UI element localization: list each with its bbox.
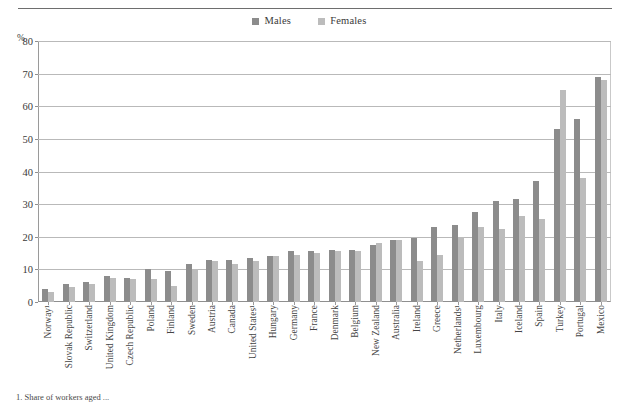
x-axis-label-cell: Luxembourg (468, 305, 488, 400)
bar-females[interactable] (519, 216, 525, 302)
bar-group[interactable] (222, 41, 242, 302)
bar-group[interactable] (304, 41, 324, 302)
x-axis-tick-label: Czech Republic (125, 305, 135, 366)
bar-group[interactable] (263, 41, 283, 302)
y-axis-tick-label: 70 (23, 68, 34, 79)
x-axis-label-cell: United States¹ (243, 305, 263, 400)
bar-females[interactable] (417, 261, 423, 302)
x-axis-tick-label: United States¹ (248, 305, 258, 359)
x-axis-tick-label: United Kingdom (105, 305, 115, 369)
bar-group[interactable] (243, 41, 263, 302)
bar-groups (38, 41, 611, 302)
bar-group[interactable] (345, 41, 365, 302)
bar-females[interactable] (376, 243, 382, 302)
y-axis-tick-label: 10 (23, 264, 34, 275)
x-axis-tick-label: Australia (391, 305, 401, 340)
x-axis-label-cell: Switzerland (79, 305, 99, 400)
x-axis-tick-label: Denmark (330, 305, 340, 340)
bar-females[interactable] (273, 256, 279, 302)
bar-group[interactable] (58, 41, 78, 302)
bar-females[interactable] (212, 261, 218, 302)
x-axis-tick-label: Slovak Republic (64, 305, 74, 368)
x-axis-tick-label: Mexico (596, 305, 606, 334)
bar-females[interactable] (458, 237, 464, 302)
x-axis-tick-label: Germany (289, 305, 299, 340)
bar-group[interactable] (202, 41, 222, 302)
bar-females[interactable] (539, 219, 545, 302)
bar-females[interactable] (355, 251, 361, 302)
bar-group[interactable] (161, 41, 181, 302)
plot-area: 01020304050607080 (38, 41, 611, 302)
x-axis-label-cell: France (304, 305, 324, 400)
bar-group[interactable] (591, 41, 611, 302)
bar-females[interactable] (335, 251, 341, 302)
x-axis-label-cell: Denmark (325, 305, 345, 400)
bar-group[interactable] (468, 41, 488, 302)
x-axis-tick-label: Hungary (268, 305, 278, 338)
bar-females[interactable] (314, 253, 320, 302)
bar-group[interactable] (427, 41, 447, 302)
bar-females[interactable] (110, 278, 116, 302)
bar-group[interactable] (99, 41, 119, 302)
bar-group[interactable] (79, 41, 99, 302)
bar-group[interactable] (386, 41, 406, 302)
x-axis-label-cell: New Zealand (366, 305, 386, 400)
bar-group[interactable] (38, 41, 58, 302)
x-axis-tick-label: Luxembourg (473, 305, 483, 354)
bar-group[interactable] (488, 41, 508, 302)
bar-females[interactable] (130, 279, 136, 302)
y-axis-tick-label: 30 (23, 199, 34, 210)
bar-females[interactable] (499, 229, 505, 302)
legend-entry[interactable]: Males (252, 16, 291, 27)
bar-group[interactable] (284, 41, 304, 302)
x-axis-label-cell: Austria (202, 305, 222, 400)
bar-females[interactable] (48, 292, 54, 302)
x-axis-tick-label: Finland (166, 305, 176, 334)
x-axis-tick-label: Norway¹ (43, 305, 53, 338)
bar-females[interactable] (396, 240, 402, 302)
bar-females[interactable] (560, 90, 566, 302)
x-axis-tick-label: Switzerland (84, 305, 94, 351)
x-axis-label-cell: United Kingdom (99, 305, 119, 400)
bar-group[interactable] (406, 41, 426, 302)
bar-group[interactable] (140, 41, 160, 302)
y-axis-tick-label: 40 (23, 166, 34, 177)
bar-group[interactable] (447, 41, 467, 302)
x-axis-label-cell: Hungary (263, 305, 283, 400)
y-axis-tick-label: 50 (23, 133, 34, 144)
x-axis-tick-label: Netherlands¹ (453, 305, 463, 354)
bar-females[interactable] (69, 287, 75, 302)
bar-females[interactable] (294, 255, 300, 302)
bar-group[interactable] (550, 41, 570, 302)
bar-females[interactable] (151, 279, 157, 302)
bar-females[interactable] (253, 261, 259, 302)
x-axis-tick-label: Austria (207, 305, 217, 333)
bar-group[interactable] (325, 41, 345, 302)
x-axis-labels: Norway¹Slovak RepublicSwitzerlandUnited … (38, 305, 611, 400)
x-axis-tick-label: Italy (494, 305, 504, 323)
bar-females[interactable] (437, 255, 443, 302)
y-axis-tick-label: 0 (28, 297, 33, 308)
bar-females[interactable] (89, 284, 95, 302)
bar-group[interactable] (366, 41, 386, 302)
x-axis-label-cell: Slovak Republic (58, 305, 78, 400)
x-axis-label-cell: Sweden (181, 305, 201, 400)
legend-label: Females (330, 16, 366, 27)
bar-females[interactable] (171, 286, 177, 302)
bar-females[interactable] (580, 178, 586, 302)
chart-legend: MalesFemales (0, 16, 619, 27)
bar-females[interactable] (192, 269, 198, 302)
figure-footnote: 1. Share of workers aged ... (16, 392, 109, 402)
bar-group[interactable] (529, 41, 549, 302)
legend-entry[interactable]: Females (318, 16, 366, 27)
bar-group[interactable] (181, 41, 201, 302)
x-axis-tick-label: Spain (534, 305, 544, 327)
x-axis-tick-label: Canada (227, 305, 237, 333)
bar-females[interactable] (478, 227, 484, 302)
bar-group[interactable] (570, 41, 590, 302)
bar-group[interactable] (120, 41, 140, 302)
bar-group[interactable] (509, 41, 529, 302)
y-axis-tick-label: 80 (23, 36, 34, 47)
bar-females[interactable] (601, 80, 607, 302)
bar-females[interactable] (232, 264, 238, 302)
